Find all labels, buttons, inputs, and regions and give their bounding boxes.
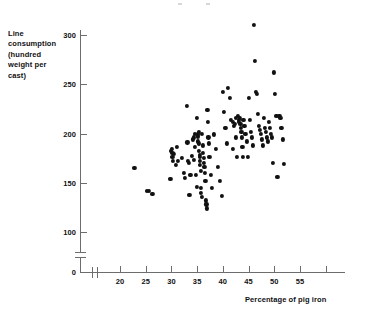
data-point — [185, 104, 189, 108]
x-tick-label: 30 — [167, 277, 176, 286]
data-point — [192, 158, 196, 162]
data-point — [262, 116, 266, 120]
data-point — [246, 96, 250, 100]
data-point — [259, 131, 263, 135]
data-point — [255, 92, 259, 96]
data-point — [172, 152, 176, 156]
data-point — [231, 147, 235, 151]
data-point — [209, 186, 213, 190]
data-point — [279, 125, 283, 129]
y-tick-mark — [81, 232, 87, 233]
data-point — [207, 155, 211, 159]
data-point — [243, 131, 247, 135]
x-axis-label: Percentage of pig iron — [245, 295, 326, 304]
data-point — [271, 161, 275, 165]
y-tick-mark — [81, 183, 87, 184]
data-point — [205, 108, 209, 112]
x-tick-mark — [249, 266, 250, 272]
data-point — [252, 23, 256, 27]
scan-artifact — [206, 3, 210, 5]
data-point — [200, 131, 204, 135]
data-point — [240, 145, 244, 149]
data-point — [206, 135, 210, 139]
data-point — [196, 134, 200, 138]
data-point — [201, 143, 205, 147]
data-point — [205, 206, 209, 210]
y-axis-break-mark — [75, 257, 86, 258]
data-point — [268, 125, 272, 129]
data-point — [273, 92, 277, 96]
data-point — [183, 176, 187, 180]
y-tick-label: 150 — [46, 178, 76, 187]
data-point — [180, 156, 184, 160]
data-point — [225, 141, 229, 145]
data-point — [195, 116, 199, 120]
data-point — [200, 194, 204, 198]
y-tick-label: 100 — [46, 228, 76, 237]
data-point — [281, 162, 285, 166]
y-tick-label: 200 — [46, 129, 76, 138]
data-point — [278, 116, 282, 120]
data-point — [266, 139, 270, 143]
data-point — [199, 186, 203, 190]
data-point — [241, 118, 245, 122]
data-point — [221, 90, 225, 94]
data-point — [207, 141, 211, 145]
data-point — [256, 112, 260, 116]
data-point — [245, 155, 249, 159]
data-point — [223, 125, 227, 129]
x-tick-mark — [120, 266, 121, 272]
x-axis-line — [80, 272, 345, 273]
y-axis-line — [80, 30, 81, 252]
data-point — [216, 165, 220, 169]
x-axis-break-mark — [97, 267, 98, 278]
data-point — [226, 86, 230, 90]
data-point — [188, 173, 192, 177]
data-point — [250, 135, 254, 139]
x-tick-label: 25 — [141, 277, 150, 286]
y-tick-label: 300 — [46, 31, 76, 40]
data-point — [251, 143, 255, 147]
data-point — [214, 147, 218, 151]
y-tick-mark — [81, 84, 87, 85]
data-point — [202, 165, 206, 169]
data-point — [168, 177, 172, 181]
scan-artifact — [178, 3, 182, 5]
data-point — [202, 156, 206, 160]
data-point — [212, 132, 216, 136]
y-axis-break-mark — [75, 252, 86, 253]
data-point — [234, 135, 238, 139]
data-point — [208, 173, 212, 177]
x-tick-label: 55 — [296, 277, 305, 286]
data-point — [185, 140, 189, 144]
data-point — [261, 143, 265, 147]
data-point — [270, 135, 274, 139]
data-point — [248, 118, 252, 122]
data-point — [191, 135, 195, 139]
data-point — [249, 129, 253, 133]
y-tick-label: 0 — [46, 268, 76, 277]
x-tick-label: 40 — [219, 277, 228, 286]
data-point — [264, 129, 268, 133]
data-point — [222, 110, 226, 114]
data-point — [220, 193, 224, 197]
data-point — [206, 120, 210, 124]
x-tick-mark — [326, 266, 327, 272]
data-point — [242, 124, 246, 128]
y-tick-mark — [81, 134, 87, 135]
x-axis-break-mark — [92, 267, 93, 278]
data-point — [203, 171, 207, 175]
data-point — [260, 137, 264, 141]
scatter-plot-figure: Line consumption (hundred weight per cas… — [0, 0, 378, 320]
x-tick-label: 20 — [116, 277, 125, 286]
data-point — [244, 139, 248, 143]
y-tick-mark — [81, 35, 87, 36]
x-tick-mark — [171, 266, 172, 272]
data-point — [187, 192, 191, 196]
x-tick-mark — [197, 266, 198, 272]
data-point — [235, 155, 239, 159]
data-point — [272, 70, 276, 74]
x-tick-label: 50 — [270, 277, 279, 286]
data-point — [253, 59, 257, 63]
x-tick-mark — [300, 266, 301, 272]
